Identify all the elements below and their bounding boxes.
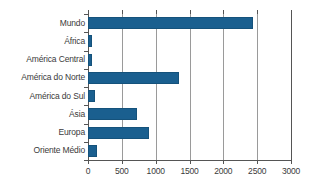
bar-row <box>88 72 291 84</box>
bar-row <box>88 35 291 47</box>
y-tick-mark <box>84 69 88 70</box>
y-tick-mark <box>84 32 88 33</box>
x-tick-label: 2000 <box>214 166 232 176</box>
bar-row <box>88 108 291 120</box>
bar <box>88 108 137 120</box>
y-tick-mark <box>84 87 88 88</box>
category-label: Ásia <box>69 110 85 119</box>
category-label: América do Norte <box>21 73 85 82</box>
bar-chart: 050010001500200025003000 MundoÁfricaAmér… <box>0 0 317 189</box>
category-label: América Central <box>26 55 85 64</box>
bar <box>88 90 95 102</box>
y-tick-mark <box>84 124 88 125</box>
y-tick-mark <box>84 51 88 52</box>
y-tick-mark <box>84 160 88 161</box>
bar <box>88 72 179 84</box>
bar-row <box>88 145 291 157</box>
category-label: África <box>64 37 85 46</box>
bar-row <box>88 17 291 29</box>
x-tick-label: 0 <box>86 166 91 176</box>
bar-row <box>88 54 291 66</box>
axis-line-bottom <box>88 160 292 161</box>
y-tick-mark <box>84 14 88 15</box>
y-tick-mark <box>84 105 88 106</box>
category-label: Europa <box>58 128 85 137</box>
bar <box>88 54 92 66</box>
category-label: América do Sul <box>29 92 85 101</box>
y-tick-mark <box>84 142 88 143</box>
x-tick-label: 2500 <box>248 166 266 176</box>
x-tick-label: 3000 <box>282 166 300 176</box>
x-tick-label: 1500 <box>180 166 198 176</box>
bar <box>88 35 92 47</box>
bar <box>88 145 97 157</box>
category-label: Oriente Médio <box>34 146 85 155</box>
x-tick-label: 500 <box>115 166 129 176</box>
plot-area <box>88 14 291 160</box>
bar-row <box>88 127 291 139</box>
bar-row <box>88 90 291 102</box>
bar <box>88 127 149 139</box>
x-tick-label: 1000 <box>147 166 165 176</box>
plot-frame-right <box>291 14 292 160</box>
category-label: Mundo <box>60 19 85 28</box>
bar <box>88 17 253 29</box>
